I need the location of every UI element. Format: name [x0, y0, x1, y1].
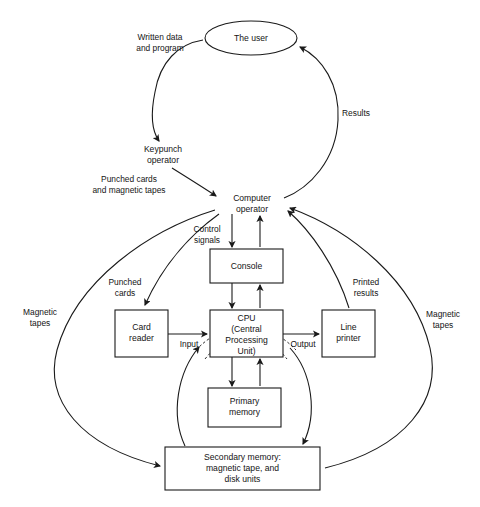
punched-cards-tapes-line2: and magnetic tapes: [92, 185, 165, 195]
edge-label-written-data-and-program: Written data and program: [136, 32, 184, 53]
node-computer-operator: Computer operator: [233, 193, 271, 214]
secondary-memory-label-line2: magnetic tape, and: [206, 463, 279, 473]
node-primary-memory[interactable]: Primary memory: [208, 388, 281, 427]
cpu-label-line1: CPU: [237, 313, 255, 323]
cpu-label-line3: Processing: [225, 335, 268, 345]
node-secondary-memory[interactable]: Secondary memory: magnetic tape, and dis…: [165, 447, 320, 490]
results-label: Results: [342, 108, 370, 118]
edge-line-printer-to-operator: [288, 211, 349, 308]
computer-operator-label-line2: operator: [236, 204, 268, 214]
keypunch-operator-label-line1: Keypunch: [144, 144, 182, 154]
node-keypunch-operator: Keypunch operator: [144, 144, 182, 165]
edge-keypunch-to-computer-operator: [172, 168, 216, 196]
edge-label-magnetic-tapes-right: Magnetic tapes: [426, 309, 460, 330]
node-the-user[interactable]: The user: [205, 21, 297, 55]
primary-memory-label-line2: memory: [229, 407, 261, 417]
console-label: Console: [231, 261, 263, 271]
control-signals-line2: signals: [194, 235, 220, 245]
edge-label-printed-results: Printed results: [353, 277, 380, 298]
node-cpu[interactable]: CPU (Central Processing Unit): [210, 310, 283, 357]
cpu-label-line2: (Central: [231, 324, 262, 334]
line-printer-label-line2: printer: [336, 333, 360, 343]
punched-cards-tapes-line1: Punched cards: [101, 174, 157, 184]
node-card-reader[interactable]: Card reader: [115, 310, 168, 357]
edge-label-punched-cards-and-magnetic-tapes: Punched cards and magnetic tapes: [92, 174, 165, 195]
diagram-canvas: The user Keypunch operator Computer oper…: [0, 0, 480, 507]
printed-results-line2: results: [354, 288, 379, 298]
written-data-line1: Written data: [138, 32, 183, 42]
control-signals-line1: Control: [194, 224, 221, 234]
secondary-memory-label-line1: Secondary memory:: [204, 452, 281, 462]
input-label: Input: [180, 339, 199, 349]
the-user-label: The user: [234, 33, 268, 43]
node-console[interactable]: Console: [210, 249, 283, 283]
edge-secondary-memory-to-cpu: [177, 347, 199, 446]
printed-results-line1: Printed: [353, 277, 380, 287]
magnetic-tapes-left-line2: tapes: [30, 318, 51, 328]
edge-label-results: Results: [342, 108, 370, 118]
punched-cards-line1: Punched: [108, 277, 141, 287]
output-label: Output: [290, 339, 316, 349]
written-data-line2: and program: [136, 43, 184, 53]
keypunch-operator-label-line2: operator: [147, 155, 179, 165]
edge-label-output: Output: [290, 339, 316, 349]
line-printer-label-line1: Line: [340, 322, 356, 332]
edge-label-punched-cards: Punched cards: [108, 277, 141, 298]
computer-operator-label-line1: Computer: [233, 193, 271, 203]
edge-cpu-to-secondary-memory: [290, 348, 311, 444]
primary-memory-label-line1: Primary: [230, 396, 260, 406]
magnetic-tapes-right-line2: tapes: [433, 320, 454, 330]
cpu-label-line4: Unit): [237, 346, 255, 356]
magnetic-tapes-left-line1: Magnetic: [23, 307, 57, 317]
node-line-printer[interactable]: Line printer: [322, 310, 375, 357]
edge-label-input: Input: [180, 339, 199, 349]
flow-diagram: The user Keypunch operator Computer oper…: [0, 0, 480, 507]
edge-user-to-keypunch: [152, 40, 203, 141]
edge-label-magnetic-tapes-left: Magnetic tapes: [23, 307, 57, 328]
edge-label-control-signals: Control signals: [194, 224, 221, 245]
punched-cards-line2: cards: [115, 288, 135, 298]
secondary-memory-label-line3: disk units: [225, 474, 261, 484]
card-reader-label-line1: Card: [132, 322, 151, 332]
magnetic-tapes-right-line1: Magnetic: [426, 309, 460, 319]
edge-computer-operator-to-user: [284, 47, 338, 198]
card-reader-label-line2: reader: [129, 333, 154, 343]
